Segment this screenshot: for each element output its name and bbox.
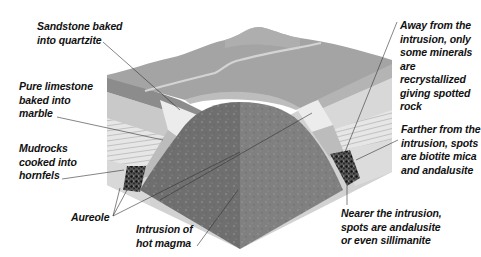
label-intrusion: Intrusion of hot magma: [136, 223, 193, 250]
label-sandstone: Sandstone baked into quartzite: [37, 20, 122, 47]
label-farther: Farther from the intrusion, spots are bi…: [401, 123, 481, 177]
label-mudrocks: Mudrocks cooked into hornfels: [19, 142, 77, 183]
leader-aureole-3: [113, 188, 120, 216]
label-away: Away from the intrusion, only some miner…: [400, 19, 481, 114]
leader-aureole-1: [113, 190, 127, 216]
label-limestone: Pure limestone baked into marble: [19, 80, 93, 121]
label-aureole: Aureole: [71, 211, 109, 225]
label-nearer: Nearer the intrusion, spots are andalusi…: [341, 207, 442, 248]
